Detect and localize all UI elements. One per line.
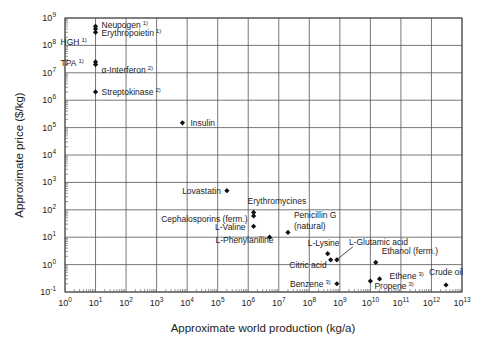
x-tick-label: 1010 (362, 296, 380, 308)
x-tick-label: 1011 (393, 296, 410, 308)
y-tick-label: 104 (42, 148, 56, 160)
point-label: Benzene3) (290, 279, 331, 289)
x-tick-label: 104 (180, 296, 194, 308)
point-label: L-Lysine (308, 238, 340, 248)
y-axis-tick-labels: 10-1100101102103104105106107108109 (40, 11, 56, 297)
point-label: L-Valine (215, 222, 246, 232)
point-label: Penicillin G (294, 210, 337, 220)
x-tick-label: 102 (119, 296, 133, 308)
point-label: Propene3) (374, 281, 413, 291)
x-tick-label: 103 (150, 296, 164, 308)
y-tick-label: 102 (42, 203, 56, 215)
chart-svg: 1001011021031041051061071081091010101110… (0, 0, 493, 345)
point-label: Ethene3) (390, 271, 424, 281)
x-tick-label: 108 (302, 296, 316, 308)
x-axis-tick-labels: 1001011021031041051061071081091010101110… (58, 296, 471, 308)
data-point-marker (325, 251, 330, 256)
point-label: α-Interferon2) (102, 65, 153, 75)
y-tick-label: 100 (42, 258, 56, 270)
log-log-scatter-chart: 1001011021031041051061071081091010101110… (0, 0, 493, 345)
x-tick-label: 101 (89, 296, 103, 308)
y-tick-label: 103 (42, 175, 56, 187)
point-label: (natural) (294, 221, 326, 231)
y-tick-label: 10-1 (40, 285, 56, 297)
point-label: L-Phenylaniline (215, 235, 273, 245)
data-point-marker (368, 278, 373, 283)
point-label: Ethanol (ferm.) (382, 246, 438, 256)
x-tick-label: 109 (333, 296, 347, 308)
point-label: Erythromycines (248, 196, 307, 206)
data-point-marker (224, 188, 229, 193)
data-point-marker (443, 282, 448, 287)
data-point-marker (93, 30, 98, 35)
point-label: L-Glutamic acid (349, 237, 408, 247)
point-labels: Neupogen1)Erythropoietin1)HGH1)TPA1)α-In… (61, 20, 464, 291)
data-point-marker (285, 230, 290, 235)
data-point-marker (251, 213, 256, 218)
point-label: Crude oil (429, 267, 463, 277)
point-label: Streptokinase2) (102, 87, 161, 97)
x-tick-label: 1012 (423, 296, 441, 308)
y-axis-label: Approximate price ($/kg) (13, 92, 25, 217)
y-tick-label: 105 (42, 121, 56, 133)
y-tick-label: 101 (42, 230, 56, 242)
data-point-marker (93, 89, 98, 94)
x-tick-label: 100 (58, 296, 72, 308)
y-tick-label: 107 (42, 66, 56, 78)
y-tick-label: 109 (42, 11, 56, 23)
x-tick-label: 106 (241, 296, 255, 308)
data-point-marker (93, 62, 98, 67)
x-tick-label: 105 (211, 296, 225, 308)
y-tick-label: 108 (42, 38, 56, 50)
data-point-marker (251, 224, 256, 229)
point-label: HGH1) (61, 37, 87, 47)
y-tick-label: 106 (42, 93, 56, 105)
x-tick-label: 1013 (453, 296, 471, 308)
point-label: TPA1) (61, 58, 84, 68)
x-tick-label: 107 (272, 296, 286, 308)
point-label: Lovastatin (182, 186, 221, 196)
data-point-marker (334, 281, 339, 286)
x-axis-label: Approximate world production (kg/a) (171, 322, 356, 334)
point-label: Insulin (190, 118, 215, 128)
data-point-marker (328, 257, 333, 262)
point-label: Erythropoietin1) (102, 28, 162, 38)
point-label: Citric acid (289, 260, 327, 270)
data-point-marker (180, 120, 185, 125)
